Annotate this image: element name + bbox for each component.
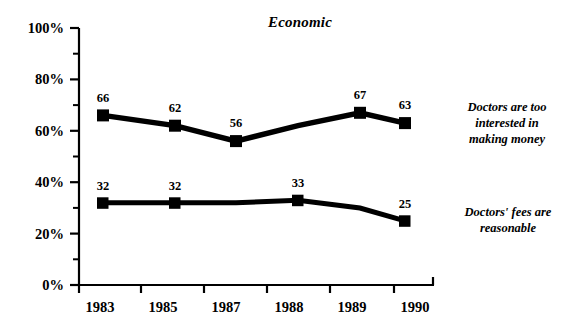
x-tick-label-1990: 1990	[384, 300, 446, 315]
point-label-lower-1988: 33	[278, 177, 318, 190]
point-label-upper-1985: 62	[155, 102, 195, 115]
x-tick-label-1983: 1983	[69, 300, 131, 315]
point-label-upper-1989: 67	[340, 89, 380, 102]
x-ticks	[79, 285, 394, 293]
y-tick-label-20: 20%	[8, 227, 64, 242]
series-legend-label-lower: Doctors' fees are reasonable	[447, 204, 569, 236]
point-label-upper-1983: 66	[83, 92, 123, 105]
point-label-lower-1983: 32	[83, 180, 123, 193]
x-tick-label-1989: 1989	[321, 300, 383, 315]
x-tick-label-1985: 1985	[132, 300, 194, 315]
point-label-lower-1985: 32	[155, 180, 195, 193]
economic-line-chart: Economic 100% 80% 60% 40% 20% 0% 1983 19…	[0, 0, 572, 327]
point-label-upper-1990: 63	[385, 99, 425, 112]
y-tick-label-60: 60%	[8, 124, 64, 139]
point-label-upper-1987: 56	[216, 117, 256, 130]
y-tick-label-40: 40%	[8, 175, 64, 190]
x-tick-label-1987: 1987	[195, 300, 257, 315]
chart-plot-area	[0, 0, 572, 327]
x-tick-label-1988: 1988	[258, 300, 320, 315]
point-label-lower-1990: 25	[385, 198, 425, 211]
y-tick-label-80: 80%	[8, 72, 64, 87]
y-tick-label-100: 100%	[8, 21, 64, 36]
chart-title: Economic	[200, 14, 400, 31]
series-line-lower	[103, 200, 405, 221]
series-legend-label-upper: Doctors are too interested in making mon…	[447, 99, 567, 147]
y-tick-label-0: 0%	[8, 278, 64, 293]
